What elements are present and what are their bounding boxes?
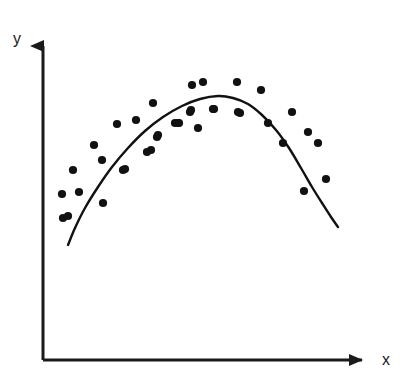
data-point — [194, 124, 202, 132]
data-point — [233, 78, 241, 86]
data-point — [300, 187, 308, 195]
data-point — [175, 119, 183, 127]
data-point — [288, 108, 296, 116]
data-point — [279, 139, 287, 147]
fitted-curve — [68, 96, 338, 245]
data-point — [314, 139, 322, 147]
data-point — [113, 120, 121, 128]
data-point — [98, 156, 106, 164]
data-point — [199, 78, 207, 86]
data-point — [322, 175, 330, 183]
data-point — [234, 108, 242, 116]
data-point — [99, 199, 107, 207]
scatter-plot-figure: y x — [0, 0, 407, 389]
data-point — [75, 188, 83, 196]
data-point — [264, 119, 272, 127]
x-axis-label: x — [382, 352, 390, 368]
data-point — [121, 165, 129, 173]
data-point — [210, 105, 218, 113]
data-point — [257, 86, 265, 94]
data-point — [69, 166, 77, 174]
data-point — [188, 81, 196, 89]
axes-group — [43, 46, 362, 360]
data-point — [154, 131, 162, 139]
data-point — [304, 128, 312, 136]
data-point — [90, 141, 98, 149]
data-point — [187, 106, 195, 114]
data-point — [132, 116, 140, 124]
data-point — [64, 212, 72, 220]
fitted-curve-path — [68, 96, 338, 245]
data-point — [58, 190, 66, 198]
data-point — [149, 99, 157, 107]
plot-canvas — [0, 0, 407, 389]
data-point — [147, 146, 155, 154]
y-axis-label: y — [13, 31, 21, 47]
